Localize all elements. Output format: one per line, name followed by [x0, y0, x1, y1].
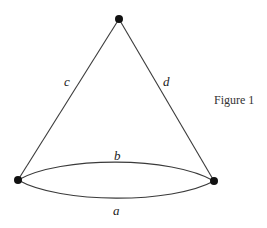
- label-d: d: [163, 74, 170, 89]
- label-b: b: [114, 148, 121, 163]
- vertex-right: [210, 177, 218, 185]
- figure-caption: Figure 1: [214, 93, 254, 107]
- edge-a: [18, 180, 214, 198]
- edge-c: [18, 19, 119, 180]
- edge-d: [119, 19, 214, 181]
- edge-b: [18, 162, 214, 181]
- label-c: c: [64, 74, 70, 89]
- label-a: a: [113, 203, 120, 218]
- vertex-top: [115, 15, 123, 23]
- vertex-left: [14, 176, 22, 184]
- graph-diagram: c d b a Figure 1: [0, 0, 267, 228]
